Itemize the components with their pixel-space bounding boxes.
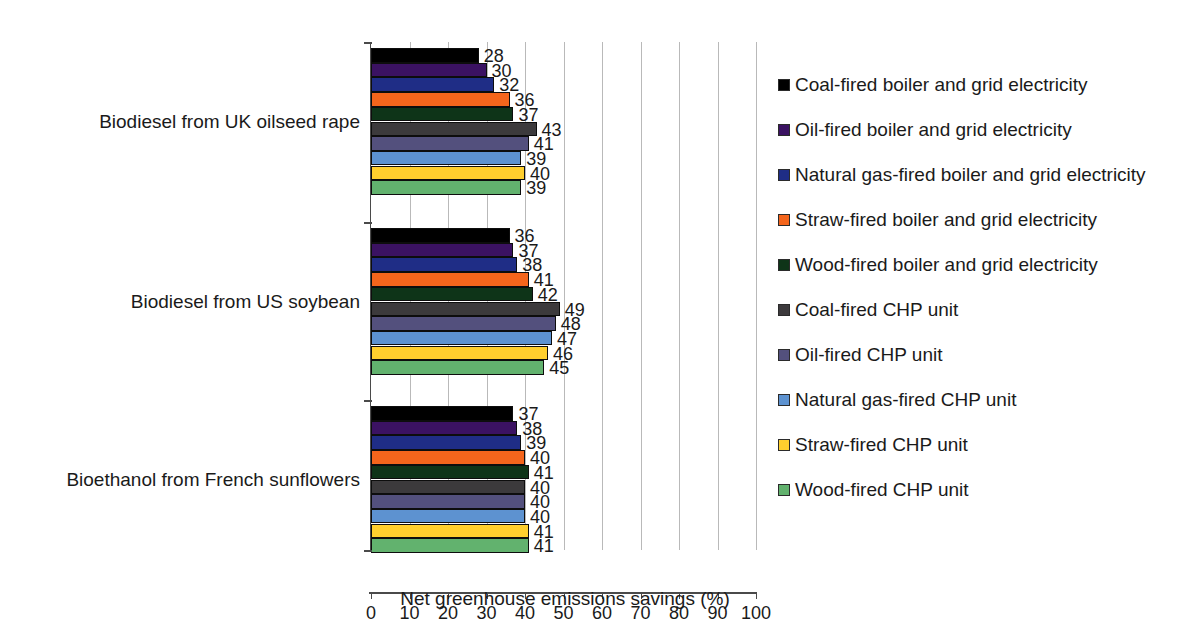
bar xyxy=(371,243,513,258)
legend-label: Coal-fired boiler and grid electricity xyxy=(795,74,1088,96)
legend-color-swatch xyxy=(778,304,790,316)
bar xyxy=(371,122,537,137)
bar xyxy=(371,287,533,302)
bar xyxy=(371,360,544,375)
bar xyxy=(371,77,494,92)
legend-item[interactable]: Coal-fired CHP unit xyxy=(778,287,1178,332)
bar-value-label: 39 xyxy=(526,179,546,197)
legend-color-swatch xyxy=(778,124,790,136)
legend-color-swatch xyxy=(778,349,790,361)
bar xyxy=(371,151,521,166)
bar xyxy=(371,480,525,495)
legend-color-swatch xyxy=(778,259,790,271)
bar xyxy=(371,450,525,465)
legend-label: Oil-fired boiler and grid electricity xyxy=(795,119,1072,141)
chart-figure: Biodiesel from UK oilseed rapeBiodiesel … xyxy=(0,0,1190,637)
bar xyxy=(371,107,513,122)
bar xyxy=(371,538,529,553)
legend-item[interactable]: Natural gas-fired CHP unit xyxy=(778,377,1178,422)
legend-item[interactable]: Oil-fired CHP unit xyxy=(778,332,1178,377)
bar xyxy=(371,346,548,361)
bar xyxy=(371,257,517,272)
bar xyxy=(371,92,510,107)
bar xyxy=(371,180,521,195)
legend-item[interactable]: Oil-fired boiler and grid electricity xyxy=(778,107,1178,152)
legend-color-swatch xyxy=(778,484,790,496)
bar xyxy=(371,494,525,509)
legend-item[interactable]: Straw-fired CHP unit xyxy=(778,422,1178,467)
bar xyxy=(371,136,529,151)
gridline xyxy=(718,42,719,550)
legend-item[interactable]: Wood-fired CHP unit xyxy=(778,467,1178,512)
bar-value-label: 45 xyxy=(549,359,569,377)
legend-label: Wood-fired boiler and grid electricity xyxy=(795,254,1098,276)
legend-label: Straw-fired boiler and grid electricity xyxy=(795,209,1097,231)
plot-area: 2830323637434139403936373841424948474645… xyxy=(370,42,756,550)
legend-item[interactable]: Coal-fired boiler and grid electricity xyxy=(778,62,1178,107)
bar xyxy=(371,272,529,287)
bar xyxy=(371,406,513,421)
gridline xyxy=(564,42,565,550)
legend-item[interactable]: Straw-fired boiler and grid electricity xyxy=(778,197,1178,242)
y-tick xyxy=(364,42,372,44)
legend-item[interactable]: Natural gas-fired boiler and grid electr… xyxy=(778,152,1178,197)
bar-value-label: 41 xyxy=(534,537,554,555)
bar xyxy=(371,465,529,480)
legend-color-swatch xyxy=(778,214,790,226)
legend-color-swatch xyxy=(778,394,790,406)
chart-legend: Coal-fired boiler and grid electricityOi… xyxy=(778,62,1178,512)
gridline xyxy=(641,42,642,550)
legend-color-swatch xyxy=(778,169,790,181)
legend-label: Oil-fired CHP unit xyxy=(795,344,942,366)
y-tick xyxy=(364,550,372,552)
x-axis-title: Net greenhouse emissions savings (%) xyxy=(340,588,790,610)
legend-color-swatch xyxy=(778,439,790,451)
legend-label: Wood-fired CHP unit xyxy=(795,479,969,501)
bar xyxy=(371,509,525,524)
bar xyxy=(371,48,479,63)
bar xyxy=(371,421,517,436)
gridline xyxy=(602,42,603,550)
bar xyxy=(371,435,521,450)
legend-item[interactable]: Wood-fired boiler and grid electricity xyxy=(778,242,1178,287)
category-axis-labels: Biodiesel from UK oilseed rapeBiodiesel … xyxy=(0,0,360,637)
gridline xyxy=(756,42,757,550)
category-label: Bioethanol from French sunflowers xyxy=(15,469,360,491)
legend-color-swatch xyxy=(778,79,790,91)
category-label: Biodiesel from US soybean xyxy=(15,291,360,313)
y-tick xyxy=(364,400,372,402)
legend-label: Natural gas-fired boiler and grid electr… xyxy=(795,164,1146,186)
bar xyxy=(371,524,529,539)
bar xyxy=(371,63,487,78)
legend-label: Coal-fired CHP unit xyxy=(795,299,958,321)
legend-label: Natural gas-fired CHP unit xyxy=(795,389,1016,411)
bar xyxy=(371,166,525,181)
y-tick xyxy=(364,222,372,224)
bar xyxy=(371,316,556,331)
bar xyxy=(371,302,560,317)
bar xyxy=(371,228,510,243)
category-label: Biodiesel from UK oilseed rape xyxy=(15,111,360,133)
legend-label: Straw-fired CHP unit xyxy=(795,434,968,456)
bar xyxy=(371,331,552,346)
gridline xyxy=(679,42,680,550)
